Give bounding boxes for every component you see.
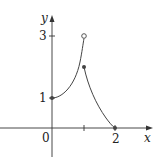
x-axis-arrow-icon — [146, 126, 153, 131]
open-point-1-3 — [82, 34, 87, 39]
y-tick-label-1: 1 — [39, 92, 47, 104]
curve-piece-1 — [52, 39, 84, 99]
filled-point-1-2 — [82, 65, 86, 69]
curve-piece-2 — [84, 67, 115, 128]
graph-canvas — [0, 0, 160, 161]
y-axis-label: y — [41, 12, 48, 24]
origin-label: 0 — [42, 132, 50, 144]
x-axis-label: x — [144, 132, 151, 144]
y-tick-label-3: 3 — [39, 30, 47, 42]
y-axis-arrow-icon — [50, 15, 55, 22]
x-tick-label-2: 2 — [112, 133, 120, 145]
filled-point-0-1 — [50, 96, 54, 100]
filled-point-2-0 — [113, 126, 117, 130]
